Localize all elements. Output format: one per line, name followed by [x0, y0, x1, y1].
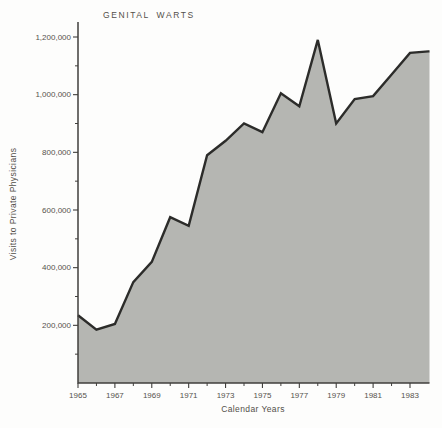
x-tick-label: 1965	[69, 391, 87, 400]
y-tick-label: 1,000,000	[35, 90, 71, 99]
x-tick-label: 1975	[254, 391, 272, 400]
y-tick-label: 800,000	[42, 148, 71, 157]
x-tick-label: 1977	[290, 391, 308, 400]
x-tick-label: 1979	[327, 391, 345, 400]
y-tick-label: 600,000	[42, 206, 71, 215]
x-tick-label: 1973	[217, 391, 235, 400]
x-tick-label: 1983	[401, 391, 419, 400]
chart-title: GENITAL WARTS	[103, 10, 195, 20]
x-axis-title: Calendar Years	[221, 404, 285, 414]
genital-warts-chart: GENITAL WARTS Visits to Private Physicia…	[0, 0, 442, 428]
x-tick-label: 1971	[180, 391, 198, 400]
chart-canvas: 200,000400,000600,000800,0001,000,0001,2…	[0, 0, 442, 428]
y-axis-title: Visits to Private Physicians	[8, 148, 18, 261]
x-tick-label: 1981	[364, 391, 382, 400]
x-tick-label: 1969	[143, 391, 161, 400]
y-tick-label: 1,200,000	[35, 33, 71, 42]
y-tick-label: 200,000	[42, 321, 71, 330]
x-tick-label: 1967	[106, 391, 124, 400]
y-tick-label: 400,000	[42, 263, 71, 272]
